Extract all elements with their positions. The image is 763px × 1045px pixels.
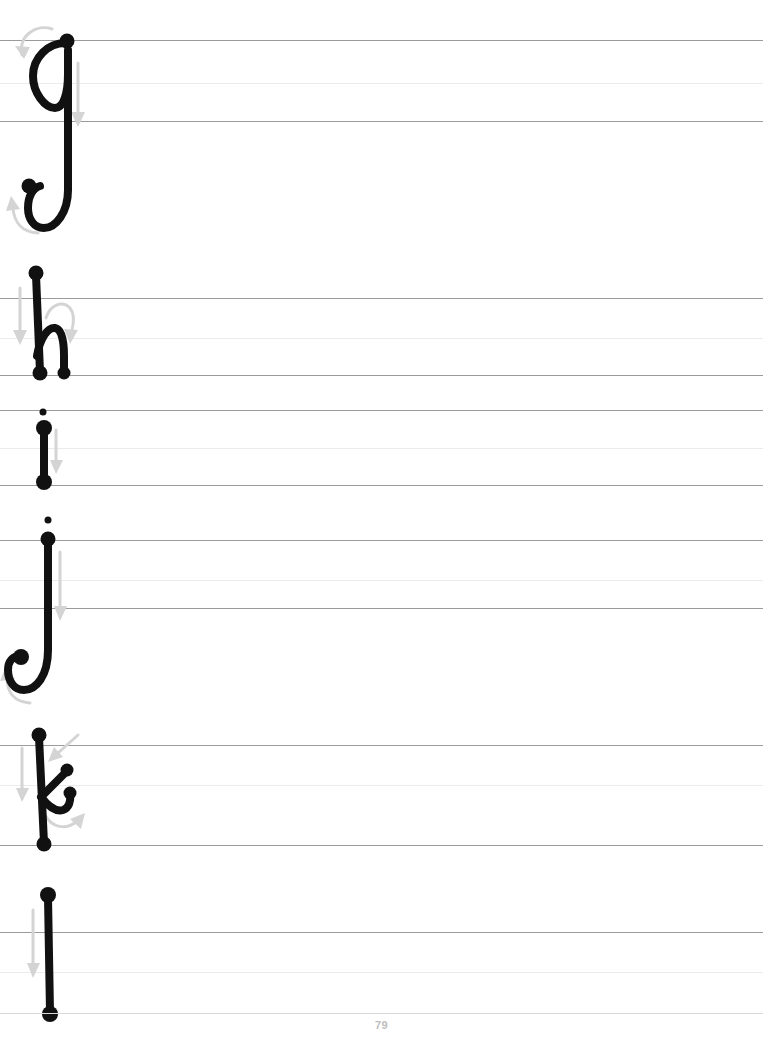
letter-g-arrow-loop	[21, 28, 52, 55]
letter-strokes-layer	[0, 0, 763, 1045]
letter-j-end-dot	[13, 649, 29, 665]
letter-g-end-dot	[22, 179, 37, 194]
letter-j-dot	[45, 517, 52, 524]
letter-h-stem-end-dot	[33, 366, 48, 381]
letter-h-arrow-arch	[46, 304, 73, 330]
letter-g-arrow-down-head	[71, 112, 85, 127]
letter-k-start-dot	[32, 728, 47, 743]
letter-g-arrow-hook	[13, 208, 38, 233]
rule-group-3-top	[0, 410, 763, 411]
rule-group-5-top	[0, 745, 763, 746]
rule-group-1-top	[0, 40, 763, 41]
rule-group-5-middle	[0, 785, 763, 786]
letter-j-arrow-hook-head	[0, 666, 15, 681]
page-number: 79	[0, 1019, 763, 1031]
letter-j-stroke	[8, 541, 48, 690]
rule-group-6-top	[0, 932, 763, 933]
letter-i	[36, 409, 63, 491]
worksheet-page: 79	[0, 0, 763, 1045]
letter-k-arrow-diagonal-head	[48, 747, 63, 762]
rule-group-3-middle	[0, 448, 763, 449]
letter-k-stem-stroke	[39, 737, 44, 843]
letter-k	[16, 728, 85, 852]
letter-h-arrow-arch-head	[64, 329, 78, 344]
letter-l-stroke	[48, 897, 50, 1012]
letter-g-arrow-hook-head	[6, 196, 20, 211]
footer-rule	[0, 1013, 763, 1014]
rule-group-2-middle	[0, 338, 763, 339]
rule-group-2-top	[0, 298, 763, 299]
letter-l-start-dot	[40, 887, 56, 903]
rule-group-4-middle	[0, 580, 763, 581]
letter-g	[6, 28, 85, 233]
letter-j-start-dot	[41, 532, 56, 547]
rule-group-4-top	[0, 540, 763, 541]
letter-l-arrow-down-head	[27, 963, 40, 978]
letter-k-leg-end-dot	[64, 787, 77, 800]
letter-k-arrow-down-head	[16, 788, 29, 802]
letter-g-start-dot	[60, 34, 75, 49]
letter-k-arrow-diagonal	[58, 735, 78, 753]
letter-i-end-dot	[36, 474, 52, 490]
letter-h	[13, 266, 78, 381]
letter-l	[27, 887, 58, 1022]
letter-g-stroke	[28, 43, 68, 228]
rule-group-5-baseline	[0, 845, 763, 846]
letter-i-start-dot	[36, 420, 52, 436]
letter-j	[0, 517, 67, 704]
letter-j-arrow-hook	[7, 678, 30, 703]
letter-k-arrow-curve	[45, 815, 76, 827]
rule-group-1-middle	[0, 83, 763, 84]
letter-g-arrow-loop-head	[15, 46, 30, 59]
rule-group-2-baseline	[0, 375, 763, 376]
letter-k-diagonal-start-dot	[61, 764, 74, 777]
letter-h-arch-end-dot	[58, 367, 71, 380]
rule-group-3-baseline	[0, 485, 763, 486]
letter-h-start-dot	[29, 266, 44, 281]
letter-k-leg-stroke	[41, 772, 70, 810]
rule-group-1-baseline	[0, 121, 763, 122]
letter-h-arch-stroke	[37, 328, 64, 372]
rule-group-4-baseline	[0, 608, 763, 609]
rule-group-6-middle	[0, 972, 763, 973]
letter-i-arrow-down-head	[50, 460, 63, 474]
letter-k-arrow-curve-head	[70, 813, 85, 829]
letter-h-stem-stroke	[36, 275, 40, 372]
letter-k-stem-end-dot	[37, 837, 52, 852]
